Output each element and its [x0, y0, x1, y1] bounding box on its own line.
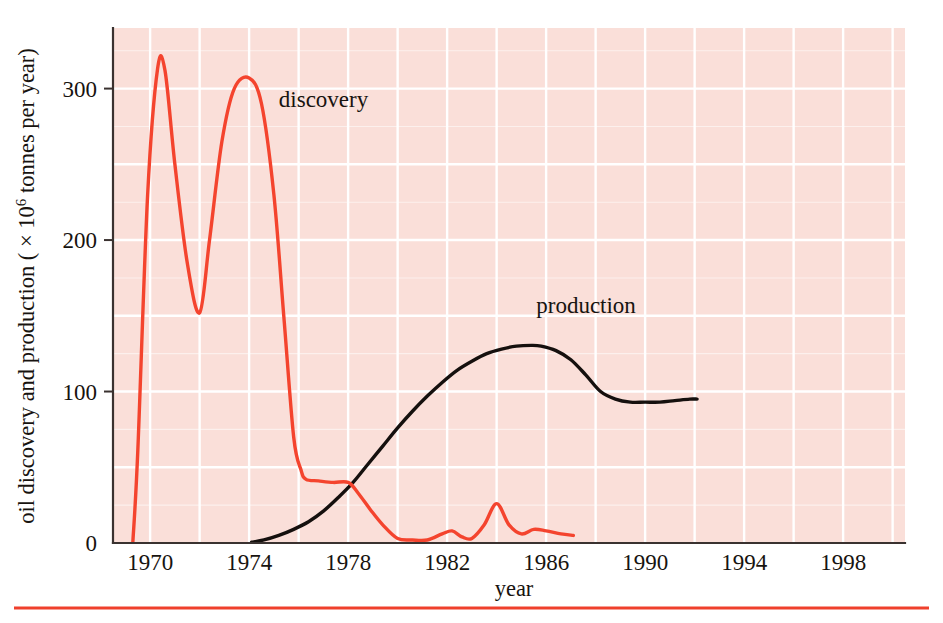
x-tick-label: 1994 — [721, 550, 768, 575]
production-label: production — [536, 293, 636, 318]
plot-background — [113, 28, 905, 543]
y-tick-label: 100 — [63, 380, 98, 405]
y-axis-ticks: 0100200300 — [63, 77, 114, 556]
y-tick-label: 0 — [86, 531, 98, 556]
x-tick-label: 1986 — [523, 550, 569, 575]
discovery-label: discovery — [279, 87, 369, 112]
x-tick-label: 1974 — [226, 550, 273, 575]
y-tick-label: 200 — [63, 228, 98, 253]
y-tick-label: 300 — [63, 77, 98, 102]
y-axis-title-main: oil discovery and production ( × 10 — [14, 206, 39, 524]
x-tick-label: 1970 — [127, 550, 173, 575]
x-tick-label: 1982 — [424, 550, 470, 575]
x-axis-title: year — [495, 576, 534, 601]
y-axis-title: oil discovery and production ( × 106 ton… — [13, 48, 39, 524]
x-axis-tick-labels: 19701974197819821986199019941998 — [127, 550, 866, 575]
chart-figure: 0100200300 19701974197819821986199019941… — [0, 0, 943, 623]
y-axis-title-tail: tonnes per year) — [14, 48, 39, 199]
x-tick-label: 1978 — [325, 550, 371, 575]
x-tick-label: 1998 — [820, 550, 866, 575]
x-tick-label: 1990 — [622, 550, 668, 575]
